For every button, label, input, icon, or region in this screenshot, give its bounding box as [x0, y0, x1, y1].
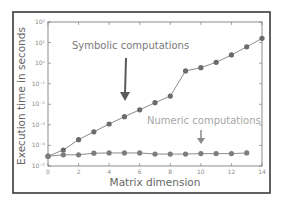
data-point [91, 151, 96, 156]
data-point [107, 121, 112, 126]
x-tick-label: 8 [168, 168, 172, 175]
data-point [244, 44, 249, 49]
x-tick-label: 10 [197, 168, 205, 175]
y-tick-label: 10² [35, 18, 46, 25]
x-tick-label: 6 [138, 168, 142, 175]
data-point [198, 65, 203, 70]
y-tick-label: 10⁻¹ [32, 80, 46, 87]
data-point [229, 52, 234, 57]
data-point [61, 147, 66, 152]
data-point [122, 114, 127, 119]
x-tick-label: 2 [77, 168, 81, 175]
y-axis-label: Execution time in seconds [15, 27, 27, 165]
data-point [137, 150, 142, 155]
data-point [168, 151, 173, 156]
data-point [198, 151, 203, 156]
data-point [137, 107, 142, 112]
data-point [61, 152, 66, 157]
y-tick-label: 10⁻³ [32, 121, 46, 128]
data-point [76, 152, 81, 157]
data-point [259, 36, 264, 41]
y-tick-label: 10⁻⁴ [32, 141, 46, 148]
data-point [107, 150, 112, 155]
x-tick-label: 14 [258, 168, 266, 175]
x-tick-label: 0 [46, 168, 50, 175]
data-point [152, 100, 157, 105]
annotation-numeric: Numeric computations [147, 115, 261, 126]
y-tick-label: 10⁻⁵ [32, 162, 46, 169]
x-tick-label: 4 [107, 168, 111, 175]
data-point [76, 137, 81, 142]
x-tick-label: 12 [228, 168, 236, 175]
annotation-symbolic: Symbolic computations [72, 40, 189, 51]
data-point [152, 151, 157, 156]
data-point [122, 150, 127, 155]
data-point [168, 93, 173, 98]
data-point [244, 150, 249, 155]
data-point [214, 60, 219, 65]
data-point [229, 151, 234, 156]
y-tick-label: 10⁻² [32, 100, 46, 107]
x-axis-label: Matrix dimension [110, 176, 201, 188]
data-point [183, 151, 188, 156]
y-tick-label: 10¹ [35, 39, 46, 46]
data-point [45, 154, 50, 159]
data-point [183, 68, 188, 73]
data-point [214, 151, 219, 156]
data-point [91, 129, 96, 134]
y-tick-label: 10⁰ [35, 59, 46, 66]
execution-time-chart: 10⁻⁵10⁻⁴10⁻³10⁻²10⁻¹10⁰10¹10² 0246810121… [0, 0, 284, 204]
